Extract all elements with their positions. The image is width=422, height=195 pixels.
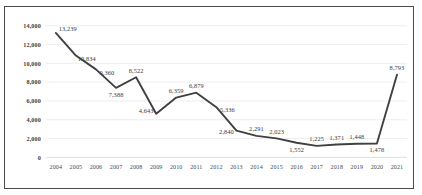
y-axis-tick-labels: 02,0004,0006,0008,00010,00012,00014,000 <box>23 23 41 161</box>
data-point-label: 8,793 <box>390 64 405 71</box>
x-axis-tick-label: 2017 <box>310 164 323 170</box>
y-axis-tick-label: 10,000 <box>23 61 41 67</box>
x-axis-tick-label: 2016 <box>290 164 303 170</box>
x-axis-tick-label: 2012 <box>210 164 223 170</box>
y-axis-tick-label: 8,000 <box>26 79 40 85</box>
chart-container: 02,0004,0006,0008,00010,00012,00014,000 … <box>4 6 414 189</box>
x-axis-tick-label: 2006 <box>90 164 103 170</box>
x-axis-tick-label: 2021 <box>391 164 404 170</box>
y-axis-tick-label: 14,000 <box>23 23 41 29</box>
y-axis-tick-label: 12,000 <box>23 42 41 48</box>
x-axis-tick-label: 2019 <box>351 164 364 170</box>
x-axis-tick-label: 2008 <box>130 164 143 170</box>
data-point-label: 1,225 <box>309 135 324 142</box>
x-axis-tick-label: 2004 <box>50 164 63 170</box>
x-axis-tick-label: 2009 <box>150 164 163 170</box>
y-axis-tick-label: 2,000 <box>26 136 40 142</box>
data-point-label: 4,643 <box>139 107 154 114</box>
x-axis-tick-label: 2007 <box>110 164 123 170</box>
data-point-label: 5,336 <box>220 106 235 113</box>
data-point-label: 8,522 <box>129 67 144 74</box>
x-axis-tick-label: 2015 <box>270 164 283 170</box>
y-axis-tick-label: 6,000 <box>26 98 40 104</box>
data-point-label: 2,291 <box>249 125 264 132</box>
x-axis-tick-label: 2011 <box>190 164 202 170</box>
data-point-label: 1,448 <box>349 133 364 140</box>
x-axis-tick-label: 2018 <box>331 164 344 170</box>
data-point-label: 6,359 <box>169 87 184 94</box>
y-axis-tick-label: 0 <box>38 155 41 161</box>
x-axis-tick-label: 2010 <box>170 164 183 170</box>
x-axis-tick-label: 2014 <box>250 164 263 170</box>
data-point-label: 2,840 <box>219 128 234 135</box>
data-point-label: 9,360 <box>100 69 115 76</box>
x-axis-tick-labels: 2004200520062007200820092010201120122013… <box>50 164 404 170</box>
data-point-label: 10,834 <box>78 55 97 62</box>
data-point-label: 1,478 <box>370 146 385 153</box>
x-axis-tick-label: 2005 <box>70 164 83 170</box>
x-axis-tick-label: 2020 <box>371 164 384 170</box>
data-point-label: 7,388 <box>109 91 124 98</box>
data-point-label: 13,239 <box>59 25 77 32</box>
chart-svg: 02,0004,0006,0008,00010,00012,00014,000 … <box>5 7 413 188</box>
data-point-label: 6,879 <box>189 82 204 89</box>
data-point-label: 2,023 <box>269 128 284 135</box>
data-point-label: 1,552 <box>289 146 304 153</box>
data-point-label: 1,371 <box>329 134 344 141</box>
line-chart-plot: 02,0004,0006,0008,00010,00012,00014,000 … <box>5 7 413 188</box>
y-axis-tick-label: 4,000 <box>26 117 40 123</box>
x-axis-tick-label: 2013 <box>230 164 243 170</box>
